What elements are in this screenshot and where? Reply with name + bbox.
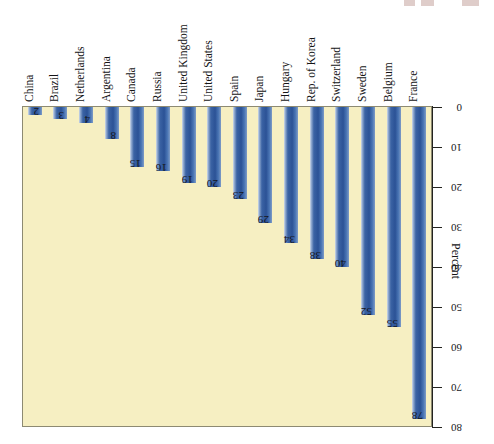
bar-value-label: 34 [284,234,295,245]
category-label: China [23,75,35,102]
category-label-slot: Japan [253,0,279,104]
bar-russia: 16 [150,107,176,427]
category-label: United Kingdom [177,24,189,102]
axis-tick [433,187,442,188]
bar-switzerland: 40 [330,107,356,427]
category-label-slot: Belgium [381,0,407,104]
bar-rect [310,107,324,259]
bar-united-kingdom: 19 [176,107,202,427]
category-label: Argentina [100,56,112,102]
bar-value-label: 20 [207,178,218,189]
category-label: France [407,71,419,102]
category-label-slot: Russia [150,0,176,104]
bar-value-label: 23 [232,190,243,201]
bars-layer: 2348151619202329343840525578 [22,107,432,427]
category-axis-labels: ChinaBrazilNetherlandsArgentinaCanadaRus… [22,0,432,104]
bar-rep-of-korea: 38 [304,107,330,427]
bar-rect [207,107,221,187]
category-label-slot: Sweden [355,0,381,104]
category-label-slot: United States [201,0,227,104]
axis-tick-label: 0 [457,102,463,113]
axis-tick-label: 50 [451,302,462,313]
category-label-slot: United Kingdom [176,0,202,104]
bar-value-label: 4 [84,114,90,125]
axis-tick [433,347,442,348]
bar-value-label: 16 [156,162,167,173]
bar-netherlands: 4 [73,107,99,427]
category-label: Netherlands [74,46,86,102]
category-label-slot: Spain [227,0,253,104]
category-label-slot: Canada [125,0,151,104]
category-label-slot: France [406,0,432,104]
category-label: Switzerland [330,47,342,102]
category-label: Russia [151,71,163,102]
bar-hungary: 34 [278,107,304,427]
category-label: Sweden [356,66,368,102]
axis-tick [433,227,442,228]
axis-tick-label: 80 [451,422,462,433]
category-label: United States [202,40,214,102]
category-label-slot: Switzerland [330,0,356,104]
category-label: Japan [253,76,265,102]
category-label: Canada [125,68,137,102]
bar-rect [284,107,298,243]
bar-rect [182,107,196,183]
category-label-slot: Netherlands [73,0,99,104]
bar-spain: 23 [227,107,253,427]
bar-argentina: 8 [99,107,125,427]
axis-tick-label: 20 [451,182,462,193]
bar-chart-figure: ChinaBrazilNetherlandsArgentinaCanadaRus… [0,0,494,444]
bar-rect [412,107,426,419]
axis-tick [433,387,442,388]
bar-rect [258,107,272,223]
bar-value-label: 55 [386,318,397,329]
bar-value-label: 40 [335,258,346,269]
bar-rect [361,107,375,315]
axis-tick [433,267,442,268]
category-label: Brazil [48,74,60,102]
bar-value-label: 52 [361,306,372,317]
axis-tick [433,307,442,308]
bar-value-label: 19 [181,174,192,185]
bar-france: 78 [406,107,432,427]
bar-united-states: 20 [201,107,227,427]
bar-value-label: 2 [33,106,39,117]
axis-tick-label: 70 [451,382,462,393]
bar-canada: 15 [125,107,151,427]
category-label-slot: Argentina [99,0,125,104]
axis-tick [433,107,442,108]
axis-tick-label: 60 [451,342,462,353]
axis-tick [433,147,442,148]
category-label-slot: Hungary [278,0,304,104]
category-label-slot: Rep. of Korea [304,0,330,104]
bar-rect [335,107,349,267]
bar-value-label: 15 [130,158,141,169]
bar-value-label: 29 [258,214,269,225]
category-label: Hungary [279,62,291,102]
category-label: Belgium [382,62,394,102]
bar-brazil: 3 [48,107,74,427]
bar-value-label: 38 [309,250,320,261]
bar-sweden: 52 [355,107,381,427]
bar-japan: 29 [253,107,279,427]
bar-value-label: 78 [412,410,423,421]
axis-tick-label: 30 [451,222,462,233]
scan-artifact [462,0,479,6]
bar-rect [387,107,401,327]
category-label-slot: China [22,0,48,104]
axis-tick [433,427,442,428]
bar-value-label: 3 [59,110,65,121]
axis-tick-label: 10 [451,142,462,153]
value-axis-title: Percent [450,243,462,279]
category-label-slot: Brazil [48,0,74,104]
bar-value-label: 8 [110,130,116,141]
bar-rect [233,107,247,199]
bar-belgium: 55 [381,107,407,427]
category-label: Spain [228,76,240,102]
bar-china: 2 [22,107,48,427]
category-label: Rep. of Korea [305,37,317,102]
